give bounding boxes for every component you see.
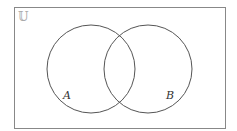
set-b-label: B [165,89,174,102]
universe-frame [15,8,226,129]
universe-label: 𝕌 [18,10,29,24]
set-a-label: A [62,89,71,102]
venn-diagram: 𝕌 A B [0,0,237,131]
